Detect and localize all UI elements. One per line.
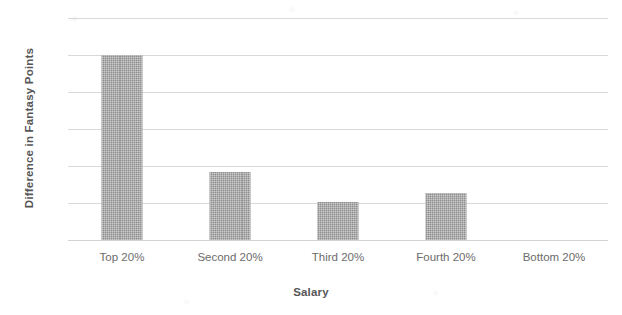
gridline	[68, 240, 608, 241]
bar-chart: Difference in Fantasy Points 32.521.510.…	[0, 0, 622, 315]
x-axis-tick-label: Top 20%	[100, 251, 145, 263]
bar-slot	[392, 18, 500, 240]
bar	[210, 172, 251, 240]
bar-slot	[176, 18, 284, 240]
bar-slot	[284, 18, 392, 240]
x-axis-title: Salary	[0, 286, 622, 298]
bar	[426, 193, 467, 240]
x-axis-tick-label: Third 20%	[312, 251, 364, 263]
bar	[102, 55, 143, 240]
bar-slot	[68, 18, 176, 240]
y-axis-title: Difference in Fantasy Points	[23, 13, 35, 243]
x-axis-tick-label: Fourth 20%	[416, 251, 475, 263]
bars-group	[68, 18, 608, 240]
x-axis-tick-labels: Top 20%Second 20%Third 20%Fourth 20%Bott…	[68, 251, 608, 271]
x-axis-tick-label: Bottom 20%	[523, 251, 586, 263]
bar	[318, 202, 359, 240]
x-axis-tick-label: Second 20%	[197, 251, 262, 263]
plot-area: 32.521.510.50	[68, 18, 608, 240]
bar-slot	[500, 18, 608, 240]
